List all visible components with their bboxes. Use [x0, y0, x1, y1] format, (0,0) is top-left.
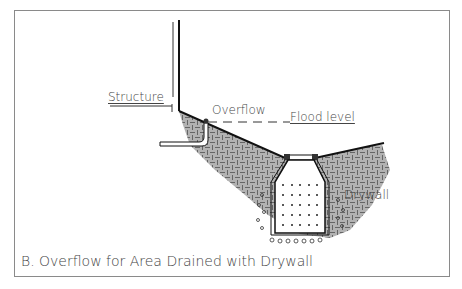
overflow-label: Overflow — [212, 103, 266, 117]
drywall-diagram — [0, 0, 462, 289]
figure-caption: B. Overflow for Area Drained with Drywal… — [21, 253, 313, 269]
flood-level-label: Flood level — [290, 110, 355, 124]
drywall-label: Drywall — [344, 188, 389, 202]
structure-label: Structure — [108, 90, 164, 104]
